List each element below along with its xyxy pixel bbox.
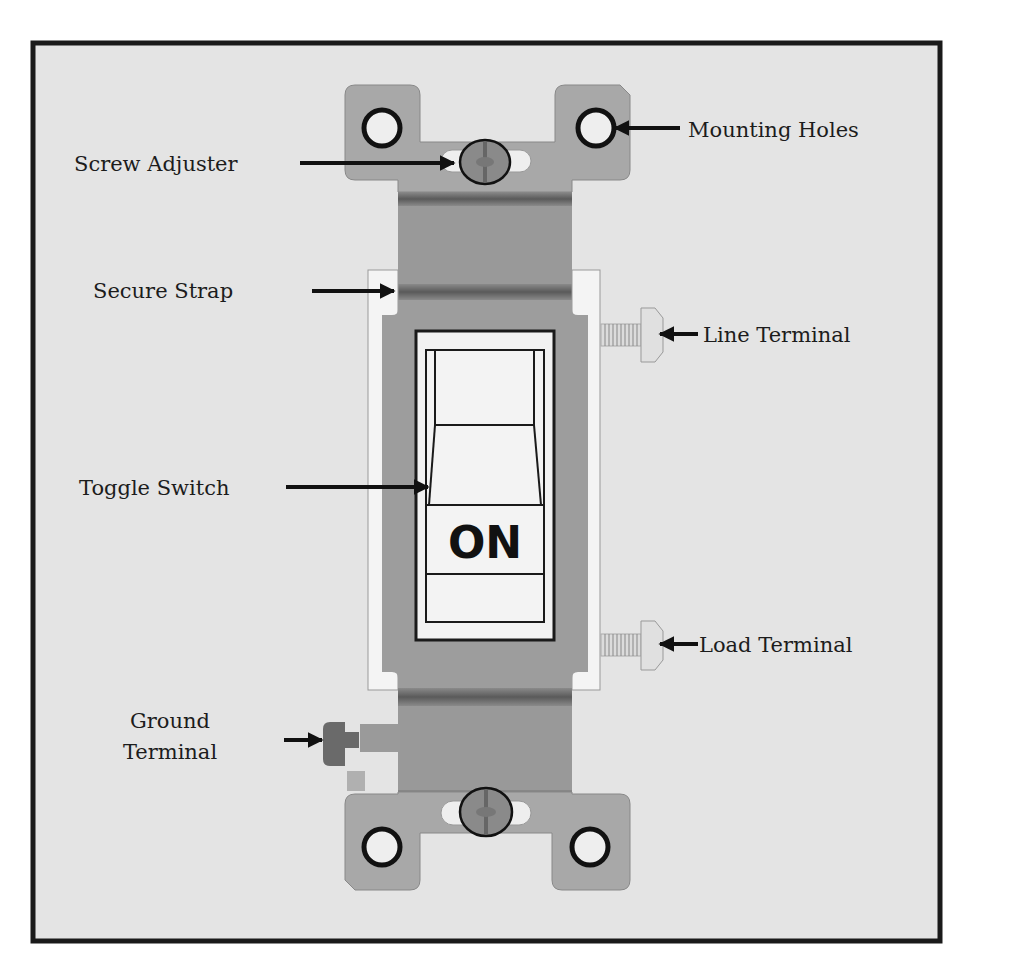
label-mounting-holes: Mounting Holes bbox=[688, 117, 859, 143]
label-toggle-switch: Toggle Switch bbox=[79, 475, 230, 501]
label-line-terminal: Line Terminal bbox=[703, 322, 851, 348]
mounting-hole-bottom-right-icon bbox=[572, 829, 608, 865]
label-load-terminal: Load Terminal bbox=[699, 632, 852, 658]
label-secure-strap: Secure Strap bbox=[93, 278, 233, 304]
label-ground-terminal-line2: Terminal bbox=[100, 739, 240, 765]
label-screw-adjuster: Screw Adjuster bbox=[74, 151, 238, 177]
toggle-switch-paddle[interactable] bbox=[426, 350, 544, 622]
toggle-state-text: ON bbox=[426, 518, 544, 568]
mounting-hole-top-right-icon bbox=[578, 110, 614, 146]
switch-diagram: ON Mounting Holes Screw Adjuster Secure … bbox=[0, 0, 1025, 960]
label-ground-terminal-line1: Ground bbox=[100, 708, 240, 734]
mounting-hole-top-left-icon bbox=[364, 110, 400, 146]
screw-adjuster-bottom-icon bbox=[460, 788, 512, 836]
mounting-hole-bottom-left-icon bbox=[364, 829, 400, 865]
screw-adjuster-top-icon bbox=[460, 140, 510, 184]
